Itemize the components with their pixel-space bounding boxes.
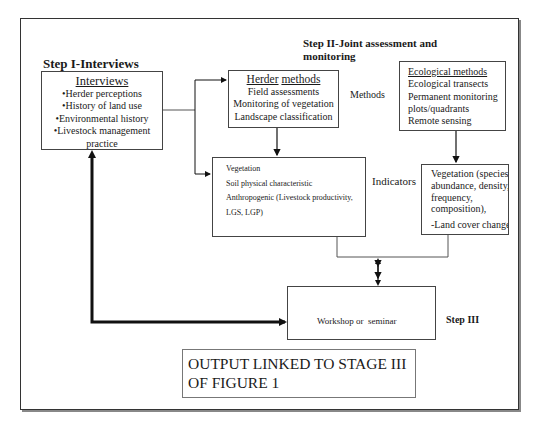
ecological-methods-title: Ecological methods xyxy=(408,66,505,78)
indicator-item: Vegetation xyxy=(226,162,365,177)
ecological-method-item: Permanent monitoring xyxy=(408,91,505,103)
ecological-method-item: Remote sensing xyxy=(408,115,505,127)
methods-word: methods xyxy=(281,73,320,85)
interviews-item: •Herder perceptions xyxy=(42,88,162,100)
eco-indicator-item: Vegetation (species xyxy=(431,168,508,180)
eco-indicator-item: frequency, xyxy=(431,192,508,204)
interviews-item: •Environmental history xyxy=(42,113,162,125)
herder-method-item: Landscape classification xyxy=(229,111,338,123)
indicators-label: Indicators xyxy=(372,175,416,187)
herder-method-item: Monitoring of vegetation xyxy=(229,98,338,110)
herder-method-item: Field assessments xyxy=(229,86,338,98)
interviews-item: •History of land use xyxy=(42,100,162,112)
output-box: OUTPUT LINKED TO STAGE III OF FIGURE 1 xyxy=(182,349,416,398)
step3-heading: Step III xyxy=(446,314,479,325)
indicator-item: Anthropogenic (Livestock productivity, xyxy=(226,191,365,206)
eco-indicator-item: abundance, density, xyxy=(431,180,508,192)
herder-indicators-box: Vegetation Soil physical characteristic … xyxy=(212,157,366,237)
methods-label: Methods xyxy=(350,89,385,100)
interviews-box: Interviews •Herder perceptions •History … xyxy=(41,71,163,150)
indicator-item: LGS, LGP) xyxy=(226,206,365,221)
workshop-text: Workshop or seminar xyxy=(317,316,397,326)
interviews-item: practice xyxy=(42,138,162,150)
step2-heading-line1: Step II-Joint assessment and xyxy=(303,37,437,50)
workshop-box: Workshop or seminar xyxy=(287,286,436,340)
step2-heading: Step II-Joint assessment and monitoring xyxy=(303,37,437,63)
indicator-item: Soil physical characteristic xyxy=(226,177,365,192)
ecological-indicators-box: Vegetation (species abundance, density, … xyxy=(421,164,509,235)
ecological-methods-box: Ecological methods Ecological transects … xyxy=(399,61,506,131)
ecological-method-item: plots/quadrants xyxy=(408,103,505,115)
ecological-method-item: Ecological transects xyxy=(408,78,505,90)
interviews-item: •Livestock management xyxy=(42,125,162,137)
herder-word: Herder xyxy=(247,73,279,85)
eco-indicator-item: composition), xyxy=(431,203,508,215)
output-line2: OF FIGURE 1 xyxy=(188,373,415,392)
eco-indicator-land-cover: -Land cover change xyxy=(431,219,508,231)
step1-heading: Step I-Interviews xyxy=(43,56,139,72)
herder-methods-box: Herder methods Field assessments Monitor… xyxy=(228,70,339,128)
interviews-title: Interviews xyxy=(42,74,162,88)
output-line1: OUTPUT LINKED TO STAGE III xyxy=(188,354,415,373)
herder-methods-title: Herder methods xyxy=(229,73,338,86)
